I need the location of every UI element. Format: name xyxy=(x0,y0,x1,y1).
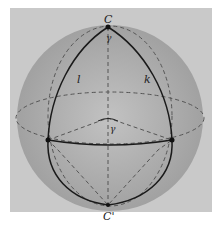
label-angle-top: γ xyxy=(106,33,112,43)
label-angle-center: γ xyxy=(110,124,116,134)
label-bottom-pole: C' xyxy=(103,210,114,223)
sphere-diagram: C C' l k γ γ xyxy=(0,0,224,231)
label-top-pole: C xyxy=(104,13,113,26)
point-right xyxy=(170,138,175,143)
point-bottom xyxy=(106,203,110,207)
label-l: l xyxy=(77,73,81,86)
point-left xyxy=(46,138,51,143)
label-k: k xyxy=(144,73,151,86)
sphere xyxy=(17,25,203,211)
